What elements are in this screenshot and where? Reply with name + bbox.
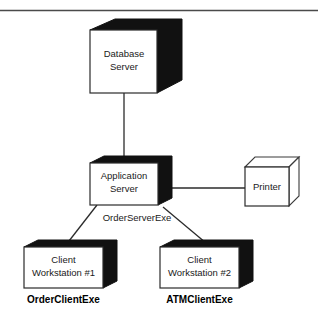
node-client-workstation-2[interactable]: Client Workstation #2 ATMClientExe — [160, 240, 253, 305]
diagram-canvas: Database Server Application Server Print… — [0, 0, 318, 327]
client-workstation-1-label-line2: Workstation #1 — [32, 267, 95, 278]
client-workstation-2-label-line1: Client — [187, 254, 212, 265]
deployment-diagram-figure: Database Server Application Server Print… — [0, 0, 318, 327]
node-database-server[interactable]: Database Server — [90, 19, 182, 93]
link-application-to-client1 — [69, 205, 97, 241]
artifact-atm-client-exe: ATMClientExe — [166, 294, 233, 305]
node-client-workstation-1[interactable]: Client Workstation #1 OrderClientExe — [24, 240, 117, 305]
application-server-label-line2: Server — [110, 183, 138, 194]
client-workstation-2-label-line2: Workstation #2 — [168, 267, 231, 278]
printer-label: Printer — [253, 181, 281, 192]
artifact-order-server-exe: OrderServerExe — [103, 212, 172, 223]
client-workstation-1-label-line1: Client — [51, 254, 76, 265]
database-server-label-line2: Server — [110, 61, 138, 72]
application-server-label-line1: Application — [101, 170, 147, 181]
database-server-label-line1: Database — [104, 48, 145, 59]
artifact-order-client-exe: OrderClientExe — [27, 294, 100, 305]
node-printer[interactable]: Printer — [245, 157, 299, 206]
node-application-server[interactable]: Application Server — [90, 156, 172, 205]
